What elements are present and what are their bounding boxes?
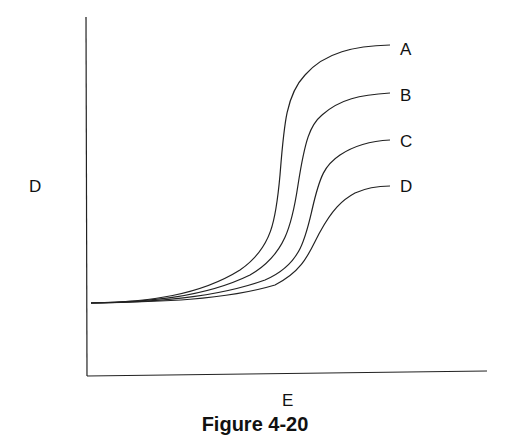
y-axis (86, 17, 87, 376)
x-axis-label: E (282, 391, 293, 410)
curve-B (91, 93, 390, 303)
curve-A (91, 45, 390, 303)
y-axis-label: D (29, 177, 41, 196)
curve-label-D: D (400, 177, 412, 196)
curve-label-B: B (400, 86, 411, 105)
x-axis (87, 371, 487, 376)
curve-D (91, 186, 390, 303)
curve-label-C: C (400, 132, 412, 151)
figure-caption: Figure 4-20 (0, 413, 510, 436)
curve-C (91, 140, 390, 303)
chart: A B C D D E (0, 0, 510, 442)
curve-label-A: A (400, 40, 412, 59)
